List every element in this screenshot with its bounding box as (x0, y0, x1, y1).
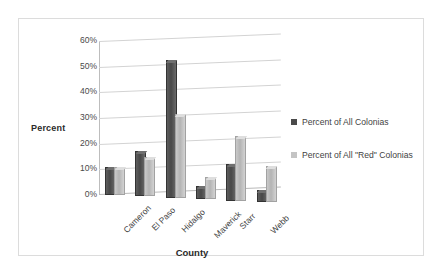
y-axis-tick: 30% (63, 113, 97, 122)
plot-area (99, 41, 281, 195)
bar-starr-series-1 (235, 138, 244, 201)
bar-groups (99, 41, 281, 195)
bar-group (196, 45, 214, 199)
x-axis-tick: Hidalgo (180, 207, 207, 234)
legend-item[interactable]: Percent of All "Red" Colonias (291, 150, 419, 161)
bar-hidalgo-series-1 (175, 116, 184, 198)
y-axis-tick-labels: 0%10%20%30%40%50%60% (61, 19, 97, 199)
y-axis-tick: 10% (63, 164, 97, 173)
y-axis-tick: 40% (63, 87, 97, 96)
bar-face (266, 166, 277, 203)
x-axis-tick: Webb (268, 213, 291, 236)
bar-group (166, 44, 184, 198)
bar-group (135, 42, 153, 196)
y-axis-tick: 50% (63, 62, 97, 71)
bar-group (257, 48, 275, 202)
x-axis-title: County (137, 247, 247, 258)
bar-el-paso-series-1 (144, 159, 153, 196)
bar-group (105, 41, 123, 195)
y-axis-tick: 0% (63, 190, 97, 199)
chart-container: Percent 0%10%20%30%40%50%60% CameronEl P… (18, 18, 424, 256)
bar-el-paso-series-0 (135, 153, 144, 197)
bar-cameron-series-0 (105, 169, 114, 195)
y-axis-tick: 60% (63, 36, 97, 45)
bar-face (144, 157, 155, 196)
bar-webb-series-1 (266, 168, 275, 203)
bar-top (205, 177, 217, 180)
plot-wrapper: Percent 0%10%20%30%40%50%60% CameronEl P… (19, 19, 425, 257)
bar-group (226, 47, 244, 201)
x-axis-tick: Cameron (121, 203, 153, 235)
light-gray-swatch (291, 152, 297, 158)
bar-hidalgo-series-0 (166, 62, 175, 198)
bar-face (114, 167, 125, 195)
bar-face (175, 114, 186, 198)
y-axis-tick: 20% (63, 139, 97, 148)
x-axis-tick-labels: CameronEl PasoHidalgoMaverickStarrWebb (99, 201, 299, 245)
bar-maverick-series-1 (205, 179, 214, 200)
x-axis-tick: El Paso (150, 205, 178, 233)
chart-legend: Percent of All ColoniasPercent of All "R… (291, 117, 419, 183)
legend-label: Percent of All Colonias (302, 117, 388, 128)
bar-face (205, 177, 216, 200)
bar-starr-series-0 (226, 166, 235, 201)
bar-face (235, 136, 246, 201)
bar-cameron-series-1 (114, 169, 123, 195)
legend-label: Percent of All "Red" Colonias (302, 150, 413, 161)
dark-gray-swatch (291, 119, 297, 125)
legend-item[interactable]: Percent of All Colonias (291, 117, 419, 128)
bar-maverick-series-0 (196, 188, 205, 200)
